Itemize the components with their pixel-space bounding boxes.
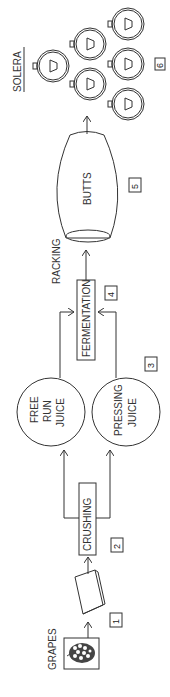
- free-run-label-3: JUICE: [55, 398, 66, 427]
- arrow-free-run-to-fermentation: [60, 312, 74, 378]
- solera-barrel: [108, 48, 144, 80]
- step-number-5: 5: [130, 184, 140, 189]
- arrow-crushing-to-free-run: [64, 450, 79, 518]
- hopper-icon: [75, 570, 105, 614]
- butts-label: BUTTS: [82, 172, 93, 205]
- solera-barrel: [108, 8, 144, 40]
- free-run-label-1: FREE: [29, 396, 40, 423]
- step-number-6: 6: [155, 63, 165, 68]
- step-number-2: 2: [112, 544, 122, 549]
- arrow-crushing-to-pressing: [96, 450, 110, 518]
- solera-barrel: [70, 28, 106, 60]
- step-number-3: 3: [146, 363, 156, 368]
- crushing-label: CRUSHING: [82, 497, 93, 551]
- solera-barrel-stack: [33, 8, 144, 120]
- grapes-label: GRAPES: [47, 628, 58, 670]
- arrow-pressing-to-fermentation: [98, 312, 116, 378]
- solera-barrel: [33, 50, 69, 82]
- step-number-1: 1: [111, 619, 121, 624]
- step-number-4: 4: [106, 292, 116, 297]
- pressing-label-1: PRESSING: [113, 384, 124, 436]
- free-run-label-2: RUN: [42, 400, 53, 422]
- fermentation-label: FERMENTATION: [81, 280, 92, 357]
- racking-label: RACKING: [51, 238, 62, 284]
- grape-bunch-icon: [67, 643, 95, 663]
- solera-barrel: [70, 68, 106, 100]
- winemaking-flow-diagram: SOLERA: [0, 0, 170, 697]
- solera-barrel: [108, 88, 144, 120]
- pressing-juice-circle: [92, 378, 160, 446]
- pressing-label-2: JUICE: [127, 398, 138, 427]
- solera-label: SOLERA: [12, 51, 23, 92]
